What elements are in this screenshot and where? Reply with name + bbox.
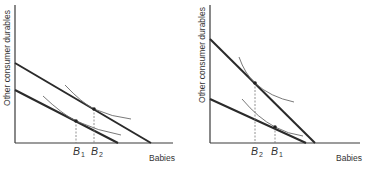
right-panel: B2 B1 Babies Other consumer durables bbox=[197, 5, 362, 163]
right-mark-1: B2 bbox=[251, 145, 263, 158]
right-lower-tangency-point bbox=[273, 125, 277, 129]
left-lower-tangency-point bbox=[74, 119, 78, 123]
left-upper-budget-line bbox=[15, 63, 151, 143]
right-y-axis-label: Other consumer durables bbox=[197, 7, 207, 103]
right-upper-budget-line bbox=[210, 39, 315, 143]
diagram-canvas: B1 B2 Babies Other consumer durables B2 … bbox=[0, 0, 368, 183]
left-mark-1: B1 bbox=[73, 145, 85, 158]
left-lower-budget-line bbox=[15, 90, 118, 143]
left-y-axis-label: Other consumer durables bbox=[2, 10, 12, 106]
left-upper-tangency-point bbox=[92, 107, 96, 111]
right-mark-2: B1 bbox=[271, 145, 283, 158]
right-x-axis-label: Babies bbox=[336, 153, 362, 163]
left-panel: B1 B2 Babies Other consumer durables bbox=[2, 5, 175, 163]
left-x-axis-label: Babies bbox=[149, 153, 175, 163]
right-upper-tangency-point bbox=[253, 81, 257, 85]
left-upper-indifference-curve bbox=[65, 85, 131, 119]
left-mark-2: B2 bbox=[91, 145, 103, 158]
